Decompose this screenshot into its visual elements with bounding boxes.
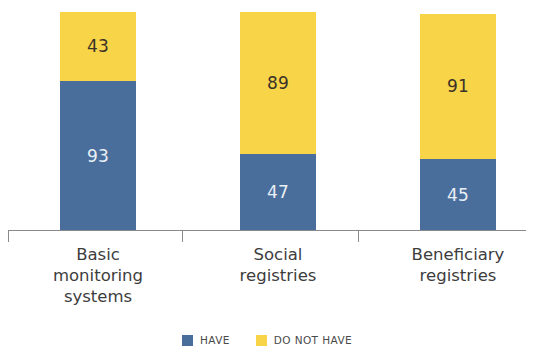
bar-segment-value-have: 93 xyxy=(87,148,109,165)
bar-stack: 43 93 xyxy=(60,12,136,231)
x-axis-label-line: registries xyxy=(218,265,338,286)
x-axis-label-line: Social xyxy=(218,244,338,265)
x-axis-tick-1 xyxy=(182,231,183,242)
bar-segment-value-do-not-have: 43 xyxy=(87,38,109,55)
x-axis-label-line: systems xyxy=(38,286,158,307)
legend-swatch-icon-do-not-have xyxy=(256,335,267,346)
bar-segment-value-do-not-have: 91 xyxy=(447,78,469,95)
bar-segment-value-have: 47 xyxy=(267,184,289,201)
x-axis-tick-start xyxy=(8,231,9,242)
bar-segment-do-not-have[interactable]: 89 xyxy=(240,12,316,154)
bar-segment-do-not-have[interactable]: 91 xyxy=(420,14,496,159)
x-axis-line xyxy=(8,230,526,231)
bar-group-basic-monitoring-systems[interactable]: 43 93 xyxy=(60,12,136,231)
x-axis-label-line: Basic xyxy=(38,244,158,265)
x-axis-tick-2 xyxy=(358,231,359,242)
bar-segment-have[interactable]: 93 xyxy=(60,81,136,231)
plot-area: 43 93 89 47 91 xyxy=(0,0,534,231)
bar-stack: 91 45 xyxy=(420,14,496,231)
legend-label-do-not-have: DO NOT HAVE xyxy=(274,334,352,346)
x-axis-label-beneficiary-registries: Beneficiary registries xyxy=(395,244,521,286)
bar-stack: 89 47 xyxy=(240,12,316,231)
bar-segment-value-do-not-have: 89 xyxy=(267,75,289,92)
bar-segment-value-have: 45 xyxy=(447,187,469,204)
x-axis-category-labels: Basic monitoring systems Social registri… xyxy=(0,244,534,306)
bar-group-beneficiary-registries[interactable]: 91 45 xyxy=(420,14,496,231)
x-axis-label-line: registries xyxy=(395,265,521,286)
stacked-bar-chart: 43 93 89 47 91 xyxy=(0,0,534,354)
bar-group-social-registries[interactable]: 89 47 xyxy=(240,12,316,231)
legend-swatch-icon-have xyxy=(182,335,193,346)
x-axis-label-basic-monitoring-systems: Basic monitoring systems xyxy=(38,244,158,307)
x-axis-label-line: monitoring xyxy=(38,265,158,286)
bar-segment-have[interactable]: 47 xyxy=(240,154,316,231)
legend-item-have[interactable]: HAVE xyxy=(182,334,230,346)
x-axis-label-line: Beneficiary xyxy=(395,244,521,265)
chart-legend: HAVE DO NOT HAVE xyxy=(0,334,534,346)
legend-item-do-not-have[interactable]: DO NOT HAVE xyxy=(256,334,352,346)
x-axis-label-social-registries: Social registries xyxy=(218,244,338,286)
bar-segment-have[interactable]: 45 xyxy=(420,159,496,231)
legend-label-have: HAVE xyxy=(200,334,230,346)
bar-segment-do-not-have[interactable]: 43 xyxy=(60,12,136,81)
